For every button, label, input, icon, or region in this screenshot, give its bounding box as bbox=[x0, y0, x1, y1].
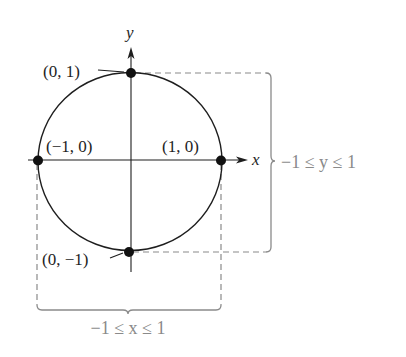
label-point-bottom: (0, −1) bbox=[42, 250, 88, 269]
dashed-guides bbox=[37, 73, 266, 305]
point-bottom bbox=[124, 247, 134, 257]
unit-circle-diagram: y x (0, 1) (−1, 0) (1, 0) (0, −1) −1 ≤ y… bbox=[0, 0, 406, 357]
point-left bbox=[33, 156, 43, 166]
point-right bbox=[216, 156, 226, 166]
label-point-top: (0, 1) bbox=[43, 62, 80, 81]
range-label: −1 ≤ y ≤ 1 bbox=[281, 152, 356, 172]
y-axis-label: y bbox=[124, 23, 134, 42]
points bbox=[33, 68, 226, 257]
leader-bottom bbox=[110, 253, 123, 258]
range-bracket bbox=[266, 73, 275, 252]
domain-label: −1 ≤ x ≤ 1 bbox=[91, 318, 166, 338]
label-point-left: (−1, 0) bbox=[46, 137, 92, 156]
point-top bbox=[126, 68, 136, 78]
x-axis-label: x bbox=[251, 150, 260, 169]
unit-circle bbox=[38, 73, 222, 251]
label-point-right: (1, 0) bbox=[162, 137, 199, 156]
leader-top bbox=[98, 70, 124, 72]
domain-bracket bbox=[37, 305, 221, 314]
